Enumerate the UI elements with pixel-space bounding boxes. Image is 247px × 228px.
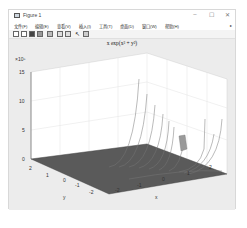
menu-overflow-icon[interactable]: ▸: [230, 23, 232, 28]
save-icon[interactable]: [29, 31, 35, 37]
x-tick: -2: [115, 187, 120, 193]
open-file-icon[interactable]: [21, 31, 27, 37]
menu-edit[interactable]: 编辑(E): [35, 23, 49, 29]
title-bar: Figure 1 – ☐ ✕: [9, 10, 235, 21]
y-tick: 1: [46, 172, 49, 178]
figure-icon: [14, 13, 20, 18]
surface-plot[interactable]: ×10⁵ 15 10 5 0 2 1 0 -1 -2 y -2 -1 0 1 2…: [9, 39, 237, 210]
legend-icon[interactable]: [65, 31, 71, 37]
x-tick: 0: [162, 176, 165, 182]
new-figure-icon[interactable]: [13, 31, 19, 37]
print-icon[interactable]: [37, 31, 43, 37]
menu-insert[interactable]: 插入(I): [79, 23, 91, 29]
z-tick: 5: [22, 127, 25, 133]
x-tick: -1: [137, 182, 142, 188]
z-exponent-label: ×10⁵: [15, 56, 26, 62]
menu-view[interactable]: 查看(V): [57, 23, 71, 29]
y-tick: -1: [75, 182, 80, 188]
menu-tools[interactable]: 工具(T): [99, 23, 112, 29]
y-tick: 0: [63, 177, 66, 183]
z-tick: 10: [19, 98, 25, 104]
y-tick: 2: [29, 165, 32, 171]
menu-window[interactable]: 窗口(W): [142, 23, 157, 29]
maximize-button[interactable]: ☐: [205, 11, 217, 18]
y-axis-label: y: [63, 194, 66, 200]
property-editor-icon[interactable]: [83, 31, 89, 37]
figure-window: Figure 1 – ☐ ✕ 文件(F) 编辑(E) 查看(V) 插入(I) 工…: [8, 9, 236, 209]
z-tick: 0: [22, 156, 25, 162]
menu-bar: 文件(F) 编辑(E) 查看(V) 插入(I) 工具(T) 桌面(D) 窗口(W…: [9, 21, 235, 30]
menu-desktop[interactable]: 桌面(D): [120, 23, 134, 29]
minimize-button[interactable]: –: [189, 11, 201, 17]
colorbar-icon[interactable]: [57, 31, 63, 37]
toolbar: ↖: [9, 30, 235, 39]
z-tick: 15: [19, 69, 25, 75]
menu-help[interactable]: 帮助(H): [165, 23, 179, 29]
pointer-icon[interactable]: ↖: [75, 31, 81, 37]
close-button[interactable]: ✕: [221, 11, 233, 18]
window-title: Figure 1: [23, 12, 41, 18]
x-tick: 1: [187, 170, 190, 176]
zoom-icon[interactable]: [47, 31, 53, 37]
x-tick: 2: [209, 164, 212, 170]
y-tick: -2: [89, 189, 94, 195]
x-axis-label: x: [155, 194, 158, 200]
axes-panel: x exp(x³ + y²): [9, 39, 235, 210]
menu-file[interactable]: 文件(F): [14, 23, 27, 29]
